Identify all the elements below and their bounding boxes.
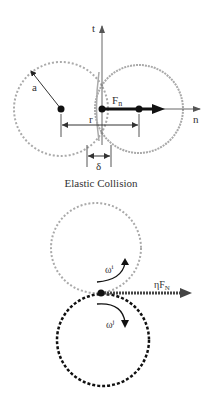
radius-label: a (32, 81, 37, 93)
lower-omega-label: ωj (106, 318, 115, 330)
lower-particle-outline (57, 294, 149, 386)
contact-point-dot (98, 290, 105, 297)
upper-particle-outline (51, 203, 141, 293)
n-axis-label: n (193, 113, 199, 125)
friction-diagram: ηFN ωi ωj (51, 203, 192, 386)
left-center-dot (58, 106, 65, 113)
delta-label: δ (96, 160, 101, 172)
collision-diagram: t n a Fn r δ Elastic Collision ηFN (0, 0, 210, 394)
friction-force-arrowhead (180, 288, 192, 298)
caption: Elastic Collision (64, 177, 138, 189)
elastic-collision-diagram: t n a Fn r δ Elastic Collision (14, 22, 200, 189)
upper-rotation-arrowhead (121, 258, 129, 265)
normal-force-arrowhead (152, 104, 165, 114)
t-axis-label: t (92, 22, 95, 34)
friction-force-label: ηFN (154, 279, 170, 292)
upper-omega-label: ωi (105, 263, 114, 275)
lower-rotation-arrowhead (121, 320, 129, 328)
r-label: r (89, 113, 93, 125)
normal-force-label: Fn (112, 94, 122, 108)
